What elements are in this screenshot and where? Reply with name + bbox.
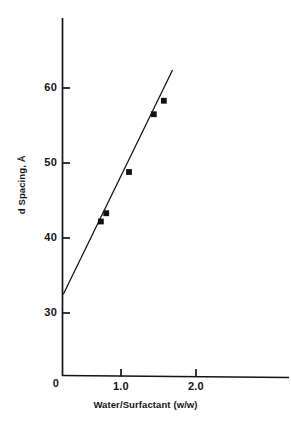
x-tick-label: 0 (36, 378, 76, 389)
figure-container: 30405060 01.02.0 Water/Surfactant (w/w) … (0, 0, 291, 428)
y-tick-label: 30 (30, 307, 57, 318)
fit-line (63, 70, 172, 294)
x-tick-label: 2.0 (176, 381, 216, 392)
y-tick-label: 50 (30, 157, 57, 168)
x-axis-line (62, 376, 289, 378)
y-axis-ticks (63, 88, 71, 313)
y-axis-title: d Spacing, Å (17, 135, 27, 235)
data-point-marker (151, 111, 157, 117)
y-tick-label: 40 (30, 232, 57, 243)
axis-lines (62, 18, 289, 378)
data-point-marker (98, 219, 104, 225)
y-tick-label: 60 (30, 82, 57, 93)
x-tick-label: 1.0 (101, 381, 141, 392)
data-point-marker (161, 98, 167, 104)
data-point-marker (103, 210, 109, 216)
x-axis-title: Water/Surfactant (w/w) (0, 400, 291, 410)
fit-line-segment (63, 70, 172, 294)
chart-plot-area (0, 0, 291, 428)
data-point-marker (126, 169, 132, 175)
data-points (98, 98, 167, 225)
